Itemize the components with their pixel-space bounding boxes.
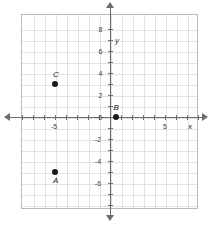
y-tick-label: -4 — [95, 158, 101, 165]
grid-line-vertical — [144, 15, 145, 208]
y-axis-tick — [108, 95, 113, 96]
x-axis-tick — [198, 115, 199, 120]
y-tick-label: 4 — [98, 70, 102, 77]
x-axis-tick — [44, 115, 45, 120]
y-axis-tick — [108, 73, 113, 74]
y-axis-tick — [108, 161, 113, 162]
x-axis-tick — [55, 115, 56, 120]
coordinate-plane-figure: -5586420-2-4-6 x y ABC — [0, 0, 212, 225]
y-axis-tick — [108, 194, 113, 195]
x-axis-tick — [176, 115, 177, 120]
x-axis-tick — [66, 115, 67, 120]
grid-line-vertical — [78, 15, 79, 208]
x-axis-tick — [121, 115, 122, 120]
y-tick-label: -6 — [95, 180, 101, 187]
x-axis-tick — [143, 115, 144, 120]
y-tick-label: -2 — [95, 136, 101, 143]
y-axis-tick — [108, 84, 113, 85]
y-axis-up-arrow-icon — [106, 2, 114, 8]
y-axis-tick — [108, 183, 113, 184]
grid-line-vertical — [133, 15, 134, 208]
x-axis-tick — [154, 115, 155, 120]
point-label-c: C — [53, 71, 59, 79]
point-label-b: B — [114, 104, 119, 112]
x-axis-tick — [165, 115, 166, 120]
y-tick-label: 0 — [98, 114, 102, 121]
grid-line-vertical — [67, 15, 68, 208]
y-axis-tick — [108, 139, 113, 140]
y-axis-tick — [108, 172, 113, 173]
x-axis-tick — [77, 115, 78, 120]
y-axis-tick — [108, 62, 113, 63]
y-axis-line — [110, 6, 111, 217]
y-axis-tick — [108, 29, 113, 30]
y-axis-tick — [108, 40, 113, 41]
grid-line-vertical — [188, 15, 189, 208]
grid-line-vertical — [177, 15, 178, 208]
y-axis-tick — [108, 150, 113, 151]
grid-line-vertical — [111, 15, 112, 208]
x-axis-line — [8, 117, 204, 118]
grid-line-vertical — [89, 15, 90, 208]
x-axis-tick — [187, 115, 188, 120]
y-tick-label: 2 — [98, 92, 102, 99]
plotted-point-a — [52, 169, 58, 175]
grid-line-vertical — [45, 15, 46, 208]
x-axis-tick — [33, 115, 34, 120]
y-tick-label: 8 — [98, 26, 102, 33]
y-tick-label: 6 — [98, 48, 102, 55]
x-axis-tick — [132, 115, 133, 120]
x-axis-left-arrow-icon — [4, 113, 10, 121]
y-axis-tick — [108, 106, 113, 107]
y-axis-down-arrow-icon — [106, 215, 114, 221]
plotted-point-c — [52, 81, 58, 87]
y-axis-tick — [108, 51, 113, 52]
x-axis-tick — [22, 115, 23, 120]
x-tick-label: 5 — [163, 123, 167, 130]
x-tick-label: -5 — [51, 123, 57, 130]
point-label-a: A — [53, 177, 58, 185]
plotted-point-b — [113, 114, 119, 120]
y-axis-label: y — [115, 37, 119, 45]
grid-line-vertical — [166, 15, 167, 208]
y-axis-tick — [108, 128, 113, 129]
y-axis-tick — [108, 205, 113, 206]
grid-line-vertical — [34, 15, 35, 208]
x-axis-tick — [88, 115, 89, 120]
x-axis-label: x — [188, 123, 192, 131]
grid-line-vertical — [122, 15, 123, 208]
grid-line-vertical — [155, 15, 156, 208]
x-axis-right-arrow-icon — [202, 113, 208, 121]
